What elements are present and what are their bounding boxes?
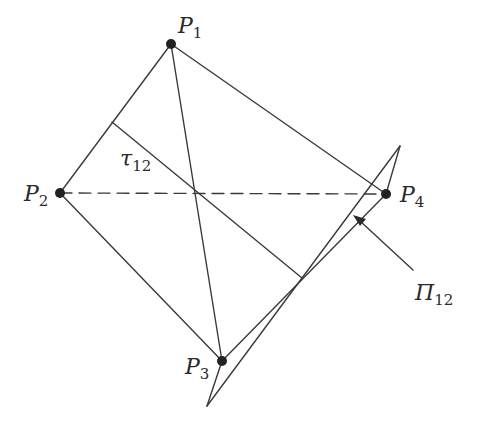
tau-12-line [112, 122, 302, 278]
point-p2 [55, 188, 65, 198]
point-p4 [381, 189, 391, 199]
label-p3: P3 [184, 354, 209, 383]
edge-p1-p4 [171, 44, 386, 194]
plane-edge-inner-top [386, 146, 400, 194]
edge-p1-p2 [60, 44, 171, 193]
point-p3 [217, 356, 227, 366]
edge-p2-p3 [60, 193, 222, 361]
diagram-canvas: P1 P2 P3 P4 τ12 Π12 [0, 0, 483, 432]
label-p1: P1 [177, 13, 202, 42]
edge-p2-p4-dashed [60, 193, 386, 194]
plane-pointer-line [360, 221, 413, 270]
edge-p1-p3 [171, 44, 222, 361]
label-p4: P4 [399, 182, 424, 211]
label-pi-12: Π12 [414, 280, 453, 309]
tetrahedron-diagram: P1 P2 P3 P4 τ12 Π12 [0, 0, 483, 432]
label-p2: P2 [23, 181, 48, 210]
point-p1 [166, 39, 176, 49]
plane-edge-outer [207, 146, 400, 406]
